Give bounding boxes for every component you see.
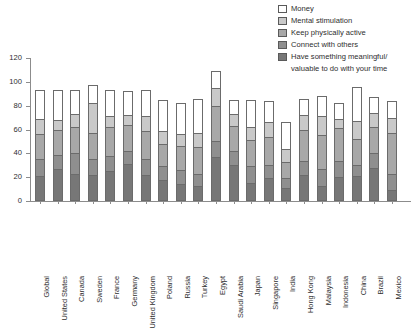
bar-segment (35, 119, 45, 134)
legend-label-connect-with-others: Connect with others (291, 40, 358, 50)
x-tick (374, 201, 375, 204)
bar-segment (317, 96, 327, 116)
x-tick (128, 201, 129, 204)
bar-segment (123, 151, 133, 164)
bar-segment (246, 183, 256, 201)
bar-segment (387, 101, 397, 118)
x-tick (110, 201, 111, 204)
bar-segment (352, 87, 362, 122)
bar-segment (193, 133, 203, 147)
bar-segment (369, 127, 379, 153)
x-label-indonesia: Indonesia (342, 276, 350, 308)
bar-segment (281, 122, 291, 148)
bar-poland (158, 100, 168, 201)
legend-label-mental-stimulation: Mental stimulation (291, 16, 352, 26)
bar-segment (317, 135, 327, 168)
y-tick-40 (26, 153, 30, 154)
x-label-malaysia: Malaysia (325, 276, 333, 305)
x-label-sweden: Sweden (96, 276, 104, 303)
x-tick (286, 201, 287, 204)
bar-malaysia (317, 96, 327, 201)
bar-segment (352, 176, 362, 201)
x-label-united-kingdom: United Kingdom (149, 276, 157, 329)
bar-segment (299, 130, 309, 161)
x-label-united-states: United States (61, 276, 69, 320)
bar-segment (299, 161, 309, 175)
bar-segment (334, 119, 344, 129)
bar-segment (334, 103, 344, 118)
bar-segment (176, 146, 186, 170)
bar-segment (229, 165, 239, 201)
bar-group (31, 58, 411, 201)
bar-segment (387, 118, 397, 133)
x-label-poland: Poland (166, 276, 174, 299)
x-label-india: India (289, 276, 297, 292)
bar-segment (299, 99, 309, 116)
y-tick-0 (26, 201, 30, 202)
x-tick (216, 201, 217, 204)
bar-segment (158, 180, 168, 201)
bar-mexico (387, 101, 397, 201)
bar-segment (123, 164, 133, 201)
x-tick (40, 201, 41, 204)
bar-segment (334, 128, 344, 160)
x-tick (322, 201, 323, 204)
bar-segment (193, 147, 203, 173)
bar-segment (105, 116, 115, 127)
bar-segment (141, 159, 151, 174)
bar-segment (281, 178, 291, 188)
bar-segment (387, 190, 397, 201)
bar-segment (352, 165, 362, 176)
x-label-egypt: Egypt (219, 276, 227, 295)
bar-segment (158, 166, 168, 179)
x-tick (339, 201, 340, 204)
y-tick-80 (26, 106, 30, 107)
bar-segment (229, 100, 239, 114)
legend-swatch-mental-stimulation (278, 17, 287, 25)
legend-label-keep-physically-active: Keep physically active (291, 28, 366, 38)
bar-segment (246, 166, 256, 183)
y-tick-label-40: 40 (0, 149, 22, 157)
bar-segment (141, 90, 151, 116)
bar-segment (264, 101, 274, 122)
plot-area (31, 58, 411, 201)
legend-swatch-money (278, 5, 287, 13)
x-tick (93, 201, 94, 204)
bar-segment (53, 130, 63, 155)
x-axis-line (30, 201, 411, 202)
bar-segment (88, 133, 98, 159)
bar-segment (88, 103, 98, 133)
x-axis-labels: GlobalUnited StatesCanadaSwedenFranceGer… (31, 204, 411, 278)
bar-saudi-arabia (229, 100, 239, 201)
legend-item-money: Money (278, 4, 417, 15)
x-tick (357, 201, 358, 204)
legend-item-mental-stimulation: Mental stimulation (278, 16, 417, 27)
legend-label-money: Money (291, 4, 314, 14)
y-axis-ticks: 020406080100120 (0, 0, 30, 144)
bar-segment (105, 171, 115, 201)
y-tick-label-20: 20 (0, 173, 22, 181)
bar-segment (387, 133, 397, 174)
bar-segment (246, 140, 256, 166)
x-label-global: Global (43, 276, 51, 297)
bar-segment (35, 176, 45, 201)
x-tick (234, 201, 235, 204)
bar-segment (123, 125, 133, 151)
bar-turkey (193, 99, 203, 201)
y-tick-20 (26, 177, 30, 178)
bar-segment (105, 127, 115, 156)
x-label-brazil: Brazil (377, 276, 385, 294)
x-label-china: China (360, 276, 368, 295)
bar-segment (229, 126, 239, 151)
bar-segment (369, 113, 379, 127)
bar-russia (176, 103, 186, 201)
x-label-canada: Canada (78, 276, 86, 302)
bar-segment (123, 91, 133, 115)
x-tick (251, 201, 252, 204)
bar-segment (141, 175, 151, 201)
x-tick (75, 201, 76, 204)
y-tick-label-60: 60 (0, 126, 22, 134)
x-tick (304, 201, 305, 204)
x-tick (181, 201, 182, 204)
